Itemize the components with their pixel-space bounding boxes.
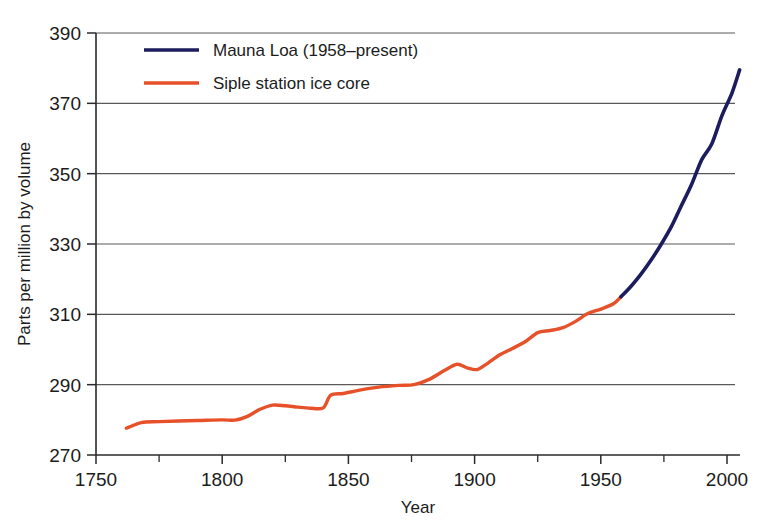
y-tick-label-270: 270 — [49, 445, 81, 466]
x-axis-ticks: 175018001850190019502000 — [75, 455, 748, 490]
chart-canvas: 270290310330350370390 175018001850190019… — [0, 0, 762, 527]
legend-label-1: Siple station ice core — [213, 74, 370, 93]
x-tick-label-1800: 1800 — [201, 469, 243, 490]
co2-concentration-chart: 270290310330350370390 175018001850190019… — [0, 0, 762, 527]
y-tick-label-330: 330 — [49, 234, 81, 255]
y-tick-label-350: 350 — [49, 164, 81, 185]
y-tick-label-370: 370 — [49, 93, 81, 114]
y-tick-label-290: 290 — [49, 375, 81, 396]
x-axis-title: Year — [401, 498, 436, 517]
y-axis-title: Parts per million by volume — [15, 142, 34, 346]
legend-label-0: Mauna Loa (1958–present) — [213, 41, 418, 60]
x-tick-label-1950: 1950 — [580, 469, 622, 490]
x-tick-label-1750: 1750 — [75, 469, 117, 490]
y-axis-ticks: 270290310330350370390 — [49, 23, 96, 466]
x-tick-label-2000: 2000 — [706, 469, 748, 490]
x-tick-label-1850: 1850 — [327, 469, 369, 490]
y-tick-label-390: 390 — [49, 23, 81, 44]
x-tick-label-1900: 1900 — [453, 469, 495, 490]
y-tick-label-310: 310 — [49, 304, 81, 325]
